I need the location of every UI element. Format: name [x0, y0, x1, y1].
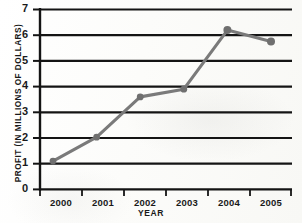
- data-line-profit: [53, 30, 271, 161]
- line-chart-figure: 7 6 5 4 3 2 1 0 2000 2001 2002 2003 2004…: [0, 0, 302, 223]
- data-point-2004: [223, 26, 231, 34]
- x-tick-label-2004: 2004: [209, 197, 249, 208]
- x-tick-label-2003: 2003: [167, 197, 207, 208]
- data-point-2003: [180, 86, 187, 93]
- x-axis-title: YEAR: [0, 208, 302, 218]
- x-tick-label-2000: 2000: [41, 197, 81, 208]
- data-point-2002: [137, 94, 144, 101]
- data-point-2000: [50, 158, 57, 165]
- chart-plot-svg: [0, 0, 302, 223]
- y-axis-title: PROFIT (IN MILLIONS OF DOLLARS): [14, 24, 23, 182]
- data-point-2005: [267, 38, 275, 46]
- x-tick-label-2005: 2005: [251, 197, 291, 208]
- data-point-2001: [93, 134, 100, 141]
- gridlines: [39, 10, 292, 164]
- y-axis-title-wrapper: PROFIT (IN MILLIONS OF DOLLARS): [7, 13, 25, 193]
- x-tick-label-2001: 2001: [83, 197, 123, 208]
- chart-screenshot: 7 6 5 4 3 2 1 0 2000 2001 2002 2003 2004…: [0, 0, 302, 223]
- x-tick-label-2002: 2002: [125, 197, 165, 208]
